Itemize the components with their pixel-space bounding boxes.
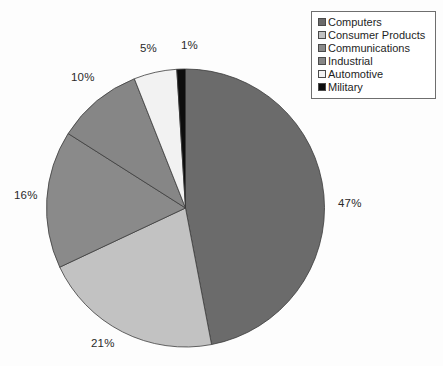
slice-label-computers: 47%	[338, 197, 362, 209]
slice-label-automotive: 5%	[140, 42, 157, 54]
legend-item-communications[interactable]: Communications	[318, 42, 430, 54]
legend-item-label: Industrial	[328, 55, 373, 67]
legend-item-military[interactable]: Military	[318, 80, 430, 92]
slice-label-industrial: 10%	[71, 71, 95, 83]
pie-chart: 47% 21% 16% 10% 5% 1% ComputersConsumer …	[0, 0, 443, 366]
legend-item-automotive[interactable]: Automotive	[318, 68, 430, 80]
legend: ComputersConsumer ProductsCommunications…	[311, 11, 436, 99]
slice-label-consumer-products: 21%	[91, 337, 115, 349]
legend-swatch-icon	[318, 18, 326, 26]
legend-swatch-icon	[318, 57, 326, 65]
legend-item-consumer-products[interactable]: Consumer Products	[318, 29, 430, 41]
slice-label-communications: 16%	[14, 189, 38, 201]
legend-item-label: Automotive	[328, 68, 383, 80]
pie-slice-group	[47, 69, 325, 347]
legend-item-label: Military	[328, 81, 363, 93]
legend-item-computers[interactable]: Computers	[318, 16, 430, 28]
legend-item-label: Communications	[328, 42, 410, 54]
slice-label-military: 1%	[181, 39, 198, 51]
legend-swatch-icon	[318, 83, 326, 91]
legend-swatch-icon	[318, 44, 326, 52]
legend-item-industrial[interactable]: Industrial	[318, 55, 430, 67]
legend-item-label: Consumer Products	[328, 29, 425, 41]
pie-slice-computers[interactable]	[186, 69, 325, 345]
legend-swatch-icon	[318, 31, 326, 39]
legend-item-label: Computers	[328, 16, 382, 28]
legend-swatch-icon	[318, 70, 326, 78]
